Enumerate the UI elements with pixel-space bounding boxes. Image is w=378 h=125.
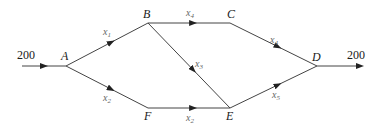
node-d: D: [311, 50, 321, 64]
edge-label-b-e: x3: [194, 58, 203, 71]
node-b: B: [143, 7, 151, 21]
edge-b-e: [148, 23, 230, 108]
inflow-value: 200: [17, 48, 35, 62]
edge-label-b-c: x4: [185, 7, 194, 20]
edge-label-a-b: x1: [102, 26, 111, 39]
labels-layer: x1x2x4x4x3x2x5200200ABCDEF: [17, 7, 365, 125]
node-a: A: [60, 49, 69, 63]
edge-label-a-f: x2: [102, 92, 111, 105]
edge-label-e-d: x5: [271, 89, 280, 102]
flow-network-diagram: x1x2x4x4x3x2x5200200ABCDEF: [0, 0, 378, 125]
edge-label-f-e: x2: [185, 112, 194, 125]
node-e: E: [225, 109, 234, 123]
node-c: C: [227, 7, 236, 21]
edge-e-d: [230, 66, 317, 108]
edges-layer: [22, 23, 360, 108]
outflow-value: 200: [347, 48, 365, 62]
edge-label-c-d: x4: [269, 34, 278, 47]
node-f: F: [143, 109, 152, 123]
